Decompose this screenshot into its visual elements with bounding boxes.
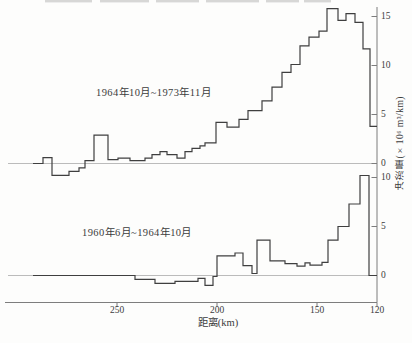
y-axis-title-wrap: 冲淤量(×10⁶ m³/km) — [393, 96, 410, 216]
bottom-panel-period-label: 1960年6月~1964年10月 — [82, 224, 192, 239]
bottom-y-tick-label: 5 — [381, 221, 386, 231]
x-tick-label: 120 — [362, 305, 392, 315]
scan-artifact-dash — [304, 0, 331, 2]
x-tick-label: 150 — [302, 305, 332, 315]
x-axis-title: 距离(km) — [173, 314, 263, 329]
top-y-tick-label: 10 — [381, 60, 391, 70]
scan-artifact-dash — [156, 0, 199, 2]
top-y-tick-label: 5 — [381, 109, 386, 119]
top-panel-period-label: 1964年10月~1973年11月 — [96, 84, 211, 99]
top-y-tick-label: 0 — [381, 158, 386, 168]
scan-artifact-dash — [45, 0, 92, 2]
x-tick-label: 250 — [102, 305, 132, 315]
scan-artifact-dash — [100, 0, 149, 2]
y-axis-title: 冲淤量(×10⁶ m³/km) — [393, 96, 407, 190]
scan-artifact-dash — [206, 0, 259, 2]
scan-artifact-dash — [266, 0, 299, 2]
bottom-y-tick-label: 10 — [381, 172, 391, 182]
sediment-distribution-figure: 1964年10月~1973年11月 1960年6月~1964年10月 距离(km… — [0, 0, 412, 343]
x-tick-label: 200 — [202, 305, 232, 315]
chart-canvas — [0, 0, 412, 343]
top-y-tick-label: 15 — [381, 11, 391, 21]
bottom-y-tick-label: 0 — [381, 270, 386, 280]
